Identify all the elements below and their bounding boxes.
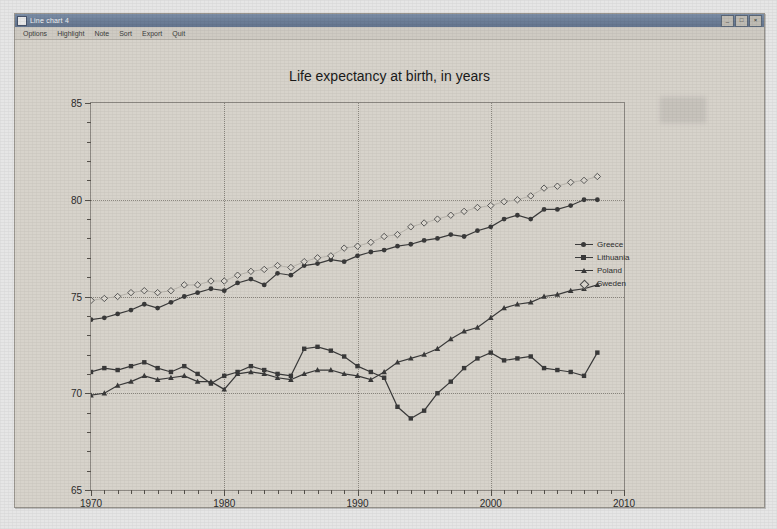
data-point: [435, 391, 439, 395]
data-point: [542, 207, 547, 212]
data-point: [91, 317, 93, 322]
menu-options[interactable]: Options: [18, 30, 52, 37]
x-axis-tick: [384, 490, 385, 494]
data-point: [115, 312, 120, 317]
legend-item-lithuania[interactable]: Lithuania: [575, 251, 695, 264]
window-title: Line chart 4: [30, 17, 721, 24]
data-point: [275, 271, 280, 276]
data-point: [555, 368, 559, 372]
data-point: [302, 347, 306, 351]
data-point: [221, 278, 227, 284]
chart-legend: GreeceLithuaniaPolandSweden: [575, 238, 695, 290]
data-point: [582, 197, 587, 202]
data-point: [355, 364, 359, 368]
menu-quit[interactable]: Quit: [167, 30, 190, 37]
maximize-button[interactable]: □: [735, 15, 748, 27]
x-axis-tick: [91, 490, 92, 496]
chart-title: Life expectancy at birth, in years: [15, 68, 764, 84]
data-point: [154, 289, 160, 295]
data-point: [249, 364, 253, 368]
data-point: [128, 289, 134, 295]
data-point: [102, 390, 108, 395]
legend-item-greece[interactable]: Greece: [575, 238, 695, 251]
data-point: [368, 239, 374, 245]
menu-bar: Options Highlight Note Sort Export Quit: [15, 27, 764, 40]
menu-highlight[interactable]: Highlight: [52, 30, 89, 37]
series-poland: [91, 282, 600, 397]
menu-sort[interactable]: Sort: [114, 30, 137, 37]
series-line: [91, 177, 597, 301]
legend-label: Lithuania: [597, 253, 629, 262]
data-point: [554, 183, 560, 189]
data-point: [395, 405, 399, 409]
data-point: [368, 250, 373, 255]
data-point: [342, 259, 347, 264]
data-point: [475, 228, 480, 233]
data-point: [595, 350, 599, 354]
data-point: [382, 248, 387, 253]
data-point: [542, 366, 546, 370]
data-point: [555, 207, 560, 212]
legend-label: Poland: [597, 266, 622, 275]
data-point: [261, 266, 267, 272]
menu-export[interactable]: Export: [137, 30, 167, 37]
legend-item-sweden[interactable]: Sweden: [575, 277, 695, 290]
x-axis-tick: [597, 490, 598, 494]
data-point: [142, 360, 146, 364]
x-axis-tick: [344, 490, 345, 494]
data-point: [274, 262, 280, 268]
data-point: [528, 193, 534, 199]
data-point: [448, 212, 454, 218]
data-point: [502, 217, 507, 222]
menu-note[interactable]: Note: [89, 30, 114, 37]
data-point: [181, 373, 187, 378]
x-axis-tick: [371, 490, 372, 494]
data-point: [569, 370, 573, 374]
title-bar[interactable]: Line chart 4 _ □ ×: [15, 14, 764, 27]
legend-swatch-filled-sq-icon: [575, 252, 593, 263]
data-point: [169, 300, 174, 305]
data-point: [381, 369, 387, 374]
line-chart: Life expectancy at birth, in years 19701…: [15, 40, 764, 507]
data-point: [474, 204, 480, 210]
data-point: [101, 295, 107, 301]
data-point: [288, 264, 294, 270]
data-point: [329, 348, 333, 352]
x-axis-tick: [477, 490, 478, 494]
x-axis-tick: [211, 490, 212, 494]
data-point: [394, 231, 400, 237]
x-axis-tick: [224, 490, 225, 496]
data-point: [288, 273, 293, 278]
close-button[interactable]: ×: [749, 15, 762, 27]
data-point: [568, 179, 574, 185]
x-axis-tick: [238, 490, 239, 494]
x-axis-tick: [611, 490, 612, 494]
data-point: [222, 374, 226, 378]
data-point: [422, 408, 426, 412]
data-point: [315, 261, 320, 266]
data-point: [448, 336, 454, 341]
x-axis-label: 1990: [346, 498, 368, 509]
data-point: [475, 356, 479, 360]
data-point: [114, 293, 120, 299]
data-point: [435, 236, 440, 241]
plot-area: 197019801990200020106570758085: [90, 102, 625, 491]
x-axis-tick: [424, 490, 425, 494]
data-point: [249, 277, 254, 282]
legend-item-poland[interactable]: Poland: [575, 264, 695, 277]
x-axis-tick: [531, 490, 532, 494]
x-axis-tick: [411, 490, 412, 494]
window-buttons: _ □ ×: [721, 15, 762, 27]
data-point: [235, 281, 240, 286]
data-point: [342, 354, 346, 358]
scan-artifact: [660, 97, 706, 123]
data-point: [195, 290, 200, 295]
x-axis-label: 1970: [80, 498, 102, 509]
data-point: [582, 374, 586, 378]
x-axis-tick: [318, 490, 319, 494]
data-point: [354, 243, 360, 249]
data-point: [502, 358, 506, 362]
data-point: [529, 354, 533, 358]
minimize-button[interactable]: _: [721, 15, 734, 27]
data-point: [315, 345, 319, 349]
